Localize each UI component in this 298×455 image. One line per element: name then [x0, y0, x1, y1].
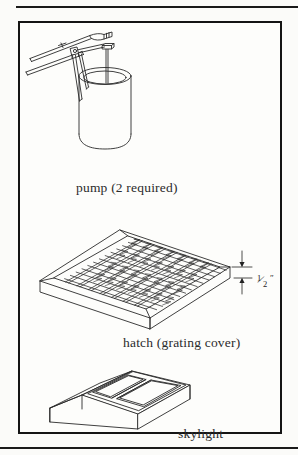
pump-drawing [26, 32, 131, 149]
page-rule-top [16, 6, 298, 8]
caption-hatch: hatch (grating cover) [123, 335, 240, 351]
dimension-label: 1 ⁄ 2 ″ [257, 275, 274, 289]
caption-skylight: skylight [178, 426, 223, 442]
caption-pump: pump (2 required) [76, 180, 178, 196]
fraction-denominator: 2 [263, 280, 267, 289]
scanned-page: 1 ⁄ 2 ″ pump (2 required) hatch (grating… [0, 0, 298, 455]
dimension-annotation [232, 251, 252, 294]
hatch-drawing [40, 230, 230, 329]
inch-mark: ″ [270, 273, 274, 283]
dim-arrowhead-upper [239, 262, 244, 267]
skylight-drawing [50, 371, 190, 429]
illustration-canvas [20, 23, 279, 431]
page-rule-bottom [0, 447, 298, 449]
figure-frame: 1 ⁄ 2 ″ pump (2 required) hatch (grating… [18, 21, 282, 434]
fraction-half: 1 ⁄ 2 [257, 275, 270, 289]
dim-arrowhead-lower [239, 278, 244, 283]
pump-handle-upper [30, 32, 112, 62]
